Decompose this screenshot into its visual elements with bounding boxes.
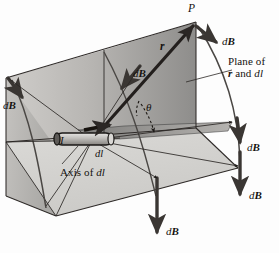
label-r-vector: r (160, 40, 165, 52)
axis-dl-text: dl (96, 166, 105, 178)
plane-line-1: Plane of (228, 55, 265, 67)
plane-and-text: and (232, 67, 254, 79)
label-dB-left: dB (3, 100, 16, 112)
biot-savart-figure: P r θ I dl Axis of dl Plane of r and dl … (0, 0, 279, 253)
dB-vector-right-upper (237, 118, 240, 142)
label-dB-top-right: dB (222, 36, 235, 48)
label-dB-bottom: dB (166, 226, 179, 238)
axis-of-text: Axis of (60, 166, 96, 178)
plane-dl-symbol: dl (254, 67, 263, 79)
dB-B-char: B (255, 189, 262, 201)
diagram-canvas (0, 0, 279, 253)
label-dB-right-lower: dB (249, 190, 262, 202)
label-current-i: I (60, 135, 64, 147)
label-theta: θ (146, 102, 152, 114)
label-point-p: P (188, 2, 195, 14)
dB-B-char: B (172, 225, 179, 237)
label-plane-of-r-and-dl: Plane of r and dl (228, 56, 265, 79)
label-dB-middle: dB (133, 68, 146, 80)
dB-B-char: B (139, 67, 146, 79)
dB-B-char: B (228, 35, 235, 47)
dB-B-char: B (9, 99, 16, 111)
dB-B-char: B (253, 141, 260, 153)
label-dB-right-upper: dB (247, 142, 260, 154)
label-dl-element: dl (95, 148, 103, 159)
label-axis-of-dl: Axis of dl (60, 167, 105, 179)
